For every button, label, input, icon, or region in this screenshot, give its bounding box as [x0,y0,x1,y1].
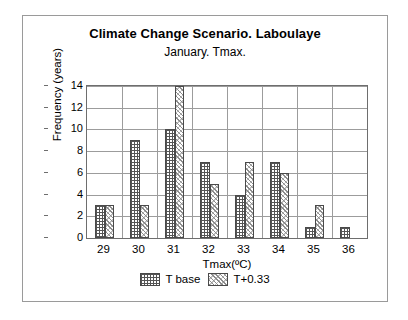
y-axis-tick-mark [44,237,48,238]
x-axis-tick-label: 31 [167,243,180,256]
legend-item[interactable]: T+0.33 [208,273,269,286]
y-axis-tick-label: 8 [77,145,83,156]
bar-t-0-33-29 [105,205,115,238]
x-axis-tick-label: 35 [307,243,320,256]
bar-group [192,86,227,238]
y-axis-tick-label: 10 [71,123,83,134]
y-axis-tick-mark [44,85,48,86]
y-axis-tick-mark [44,128,48,129]
y-axis-tick-label: 12 [71,102,83,113]
x-axis-tick-label: 33 [237,243,250,256]
chart-subtitle: January. Tmax. [23,44,387,60]
y-axis-tick-mark [44,172,48,173]
x-axis-tick-label: 32 [202,243,215,256]
legend-item[interactable]: T base [140,273,200,286]
chart-title: Climate Change Scenario. Laboulaye [23,26,387,42]
y-axis-tick-mark [44,150,48,151]
chart-frame: Climate Change Scenario. Laboulaye Janua… [22,15,388,302]
y-axis-tick-label: 14 [71,80,83,91]
bar-t-base-29 [95,205,105,238]
y-axis-tick-mark [44,107,48,108]
bar-t-base-34 [270,162,280,238]
bar-group [262,86,297,238]
bar-t-0-33-33 [245,162,255,238]
bar-t-0-33-31 [175,86,185,238]
y-axis-tick-labels: 02468101214 [49,85,83,239]
bar-t-0-33-34 [280,173,290,238]
y-axis-tick-label: 2 [77,210,83,221]
chart-legend: T baseT+0.33 [23,273,387,286]
bar-group [297,86,332,238]
x-axis-tick-label: 34 [272,243,285,256]
x-axis-tick-label: 36 [342,243,355,256]
bar-group [157,86,192,238]
bar-t-base-33 [235,195,245,238]
y-axis-tick-label: 4 [77,189,83,200]
bar-t-base-30 [130,140,140,238]
bar-t-0-33-35 [315,205,325,238]
legend-label: T base [165,273,200,286]
x-axis-tick-label: 29 [97,243,110,256]
x-axis-tick-label: 30 [132,243,145,256]
y-axis-tick-mark [44,194,48,195]
x-axis-tick-labels: 2930313233343536 [86,243,368,259]
legend-swatch-diagonal-hatch [208,273,228,286]
bar-group [87,86,122,238]
y-axis-tick-mark [44,215,48,216]
bar-t-base-31 [165,129,175,238]
y-axis-tick-label: 0 [77,232,83,243]
bar-t-base-32 [200,162,210,238]
y-axis-tick-label: 6 [77,167,83,178]
title-block: Climate Change Scenario. Laboulaye Janua… [23,26,387,60]
bar-t-base-36 [340,227,350,238]
legend-label: T+0.33 [233,273,269,286]
bar-group [227,86,262,238]
x-axis-title: Tmax(ºC) [86,258,368,271]
bar-t-0-33-30 [140,205,150,238]
legend-swatch-grid-crosshatch [140,273,160,286]
plot-area [86,85,368,239]
bar-t-0-33-32 [210,184,220,238]
bar-group [122,86,157,238]
bar-t-base-35 [305,227,315,238]
bar-group [332,86,367,238]
